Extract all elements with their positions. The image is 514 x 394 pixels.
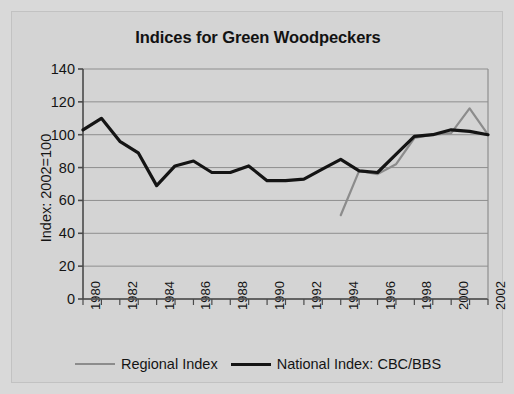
legend-entry-national: National Index: CBC/BBS [231,356,441,372]
axis-lines [83,69,488,299]
series-line [341,108,488,215]
legend-swatch-national-icon [231,363,271,366]
legend-entry-regional: Regional Index [75,356,218,372]
gridlines [83,69,488,299]
chart-legend: Regional Index National Index: CBC/BBS [12,356,504,372]
legend-swatch-regional-icon [75,363,115,365]
series-line [83,118,488,185]
legend-label-national: National Index: CBC/BBS [277,356,441,372]
series-lines [83,108,488,215]
legend-label-regional: Regional Index [121,356,218,372]
chart-figure: Indices for Green Woodpeckers Index: 200… [11,11,503,383]
tick-marks [78,69,488,305]
plot-area [12,12,504,384]
